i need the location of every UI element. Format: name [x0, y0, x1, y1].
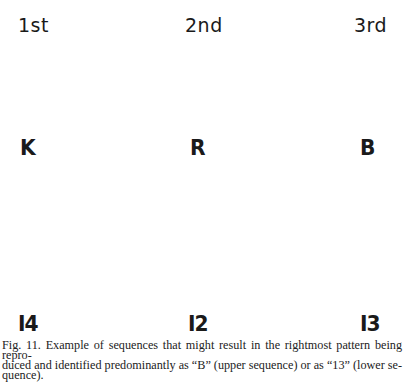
upper-pattern-2: R	[190, 135, 205, 160]
caption-line-1: Fig. 11. Example of sequences that might…	[2, 340, 402, 360]
lower-pattern-3: I3	[360, 311, 380, 336]
upper-pattern-1: K	[20, 135, 35, 160]
caption-line-2: duced and identified predominantly as “B…	[2, 360, 402, 370]
column-header-2nd: 2nd	[185, 14, 223, 36]
figure-caption: Fig. 11. Example of sequences that might…	[2, 340, 402, 380]
column-header-1st: 1st	[18, 14, 49, 36]
lower-pattern-2: I2	[188, 311, 208, 336]
column-header-3rd: 3rd	[354, 14, 387, 36]
upper-pattern-3: B	[360, 135, 375, 160]
lower-pattern-1: I4	[18, 311, 38, 336]
